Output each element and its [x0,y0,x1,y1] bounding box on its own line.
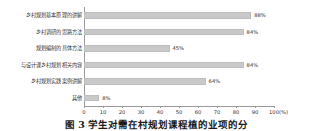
x-axis: 0 10 20 30 40 50 60 70 80 90 100 (%) [84,106,275,120]
x-tick-label: 70 [214,109,221,115]
x-tick [255,106,256,108]
bar-value-label: 45% [173,45,185,51]
category-label: 与设计课乡村规划相关内容 [0,62,84,68]
x-tick [179,106,180,108]
bar-rows: 乡村规划基本原理的讲解 88% 乡村调研的思路方法 84% 规划编制的具体方法 … [0,7,313,106]
table-row: 乡村规划基本原理的讲解 88% [0,7,313,24]
bar-area: 84% [84,57,313,74]
bar [84,62,244,69]
x-tick [236,106,237,108]
x-tick-label: 0 [82,109,85,115]
x-tick-label: 100 [269,109,279,115]
table-row: 乡村规划实践案例讲解 64% [0,73,313,90]
table-row: 与设计课乡村规划相关内容 84% [0,57,313,74]
x-tick [217,106,218,108]
bar [84,12,251,19]
x-tick [141,106,142,108]
category-label: 规划编制的具体方法 [0,45,84,51]
chart-plot-area: 乡村规划基本原理的讲解 88% 乡村调研的思路方法 84% 规划编制的具体方法 … [0,0,313,106]
x-axis-unit-label: (%) [279,109,288,115]
x-tick-label: 50 [176,109,183,115]
table-row: 其他 8% [0,90,313,107]
bar-value-label: 84% [247,29,259,35]
x-tick-label: 90 [252,109,259,115]
x-tick [198,106,199,108]
figure-container: 乡村规划基本原理的讲解 88% 乡村调研的思路方法 84% 规划编制的具体方法 … [0,0,313,131]
bar-value-label: 8% [102,95,110,101]
category-label: 乡村规划实践案例讲解 [0,78,84,84]
bar-area: 45% [84,40,313,57]
x-tick-label: 30 [138,109,145,115]
x-tick [103,106,104,108]
bar [84,45,170,52]
bar-area: 8% [84,90,313,107]
bar [84,95,99,102]
bar-value-label: 64% [209,78,221,84]
x-tick-label: 80 [233,109,240,115]
table-row: 规划编制的具体方法 45% [0,40,313,57]
x-tick [274,106,275,108]
bar-area: 88% [84,7,313,24]
x-tick-label: 20 [119,109,126,115]
x-tick [84,106,85,108]
bar-area: 84% [84,24,313,41]
bar-value-label: 88% [254,12,266,18]
x-tick-label: 60 [195,109,202,115]
category-label: 乡村规划基本原理的讲解 [0,12,84,18]
bar-area: 64% [84,73,313,90]
x-tick [122,106,123,108]
bar-value-label: 84% [247,62,259,68]
category-label: 其他 [0,95,84,101]
bar [84,78,206,85]
table-row: 乡村调研的思路方法 84% [0,24,313,41]
x-tick [160,106,161,108]
x-tick-label: 10 [100,109,107,115]
x-tick-label: 40 [157,109,164,115]
bar [84,29,244,36]
category-label: 乡村调研的思路方法 [0,29,84,35]
figure-caption: 图 3 学生对需在村规划课程植的业项的分 [0,119,313,131]
